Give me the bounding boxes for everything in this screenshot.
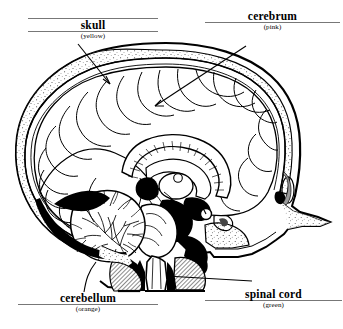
label-cerebellum: cerebellum (orange) <box>18 292 158 313</box>
label-spinal-cord-color: (green) <box>205 301 342 309</box>
label-skull: skull (yellow) <box>28 18 158 40</box>
label-spinal-cord: spinal cord (green) <box>205 288 342 309</box>
label-cerebellum-name: cerebellum <box>18 292 158 304</box>
label-cerebrum-name: cerebrum <box>205 10 340 22</box>
brain-sagittal-diagram <box>0 0 343 329</box>
label-skull-color: (yellow) <box>28 32 158 40</box>
label-cerebrum: cerebrum (pink) <box>205 10 340 31</box>
label-spinal-cord-name: spinal cord <box>205 288 342 300</box>
label-cerebrum-color: (pink) <box>205 23 340 31</box>
label-skull-name: skull <box>28 19 158 31</box>
label-cerebellum-color: (orange) <box>18 305 158 313</box>
